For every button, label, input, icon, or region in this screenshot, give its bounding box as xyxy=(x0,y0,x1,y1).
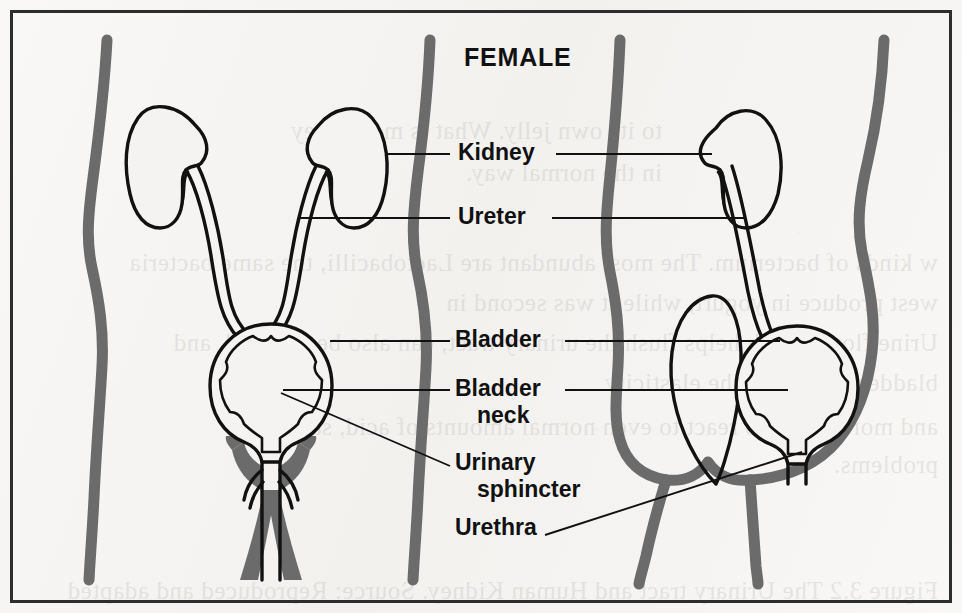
side-view-back-thigh xyxy=(750,480,758,584)
front-view-right-kidney xyxy=(307,109,387,228)
side-view-front-thigh xyxy=(639,480,666,584)
label-kidney: Kidney xyxy=(458,139,535,165)
label-kidney-line1: Kidney xyxy=(458,139,535,165)
front-view-left-ureter xyxy=(186,166,248,338)
label-bladder-neck-line1: Bladder xyxy=(455,375,541,401)
front-view-left-body-contour xyxy=(88,40,107,580)
label-bladder-neck: Bladderneck xyxy=(455,375,541,428)
anatomy-illustration: .body-line { fill:none; stroke:#6b6b6b; … xyxy=(0,0,962,613)
left-thigh xyxy=(240,490,274,580)
label-urinary-sphincter-line1: Urinary xyxy=(455,449,536,475)
label-ureter-line1: Ureter xyxy=(458,203,526,229)
right-thigh xyxy=(268,490,302,580)
label-urinary-sphincter: Urinarysphincter xyxy=(455,449,581,502)
front-view-right-body-contour xyxy=(413,40,430,580)
figure-title: FEMALE xyxy=(464,43,572,71)
front-view-right-ureter xyxy=(266,166,328,338)
label-urethra-line1: Urethra xyxy=(455,514,537,540)
label-bladder: Bladder xyxy=(455,326,541,352)
label-urinary-sphincter-line2: sphincter xyxy=(477,476,581,502)
side-view-kidney xyxy=(700,111,781,228)
label-urethra: Urethra xyxy=(455,514,537,540)
front-view-left-kidney xyxy=(126,107,207,228)
label-ureter: Ureter xyxy=(458,203,526,229)
figure-container: to its own jelly. What is more, theyin t… xyxy=(0,0,962,613)
label-bladder-line1: Bladder xyxy=(455,326,541,352)
label-group: KidneyUreterBladderBladderneckUrinarysph… xyxy=(455,139,581,540)
leader-urethra xyxy=(545,452,802,535)
side-view-front-contour xyxy=(606,40,666,480)
label-bladder-neck-line2: neck xyxy=(477,402,530,428)
